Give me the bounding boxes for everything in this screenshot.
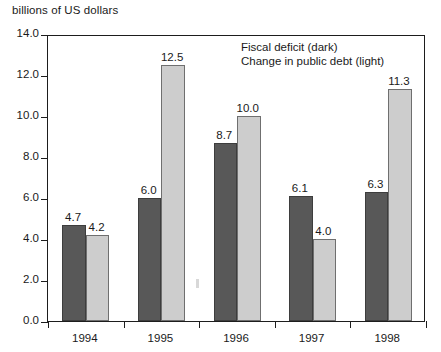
bar-1996-public-debt xyxy=(237,116,261,321)
y-axis-tick-label: 10.0 xyxy=(0,109,39,121)
x-axis-tick xyxy=(275,321,276,328)
chart-figure: billions of US dollars Fiscal deficit (d… xyxy=(0,0,441,352)
y-axis-tick xyxy=(41,240,48,241)
bar-value-label: 10.0 xyxy=(228,102,268,114)
bar-1994-public-debt xyxy=(86,235,110,321)
bar-value-label: 6.3 xyxy=(355,178,395,190)
bar-value-label: 8.7 xyxy=(204,129,244,141)
x-axis-tick xyxy=(48,321,49,328)
y-axis-tick-label: 0.0 xyxy=(0,314,39,326)
y-axis-unit-caption: billions of US dollars xyxy=(12,4,118,16)
bar-1994-fiscal-deficit xyxy=(62,225,86,321)
y-axis-tick xyxy=(41,158,48,159)
y-axis-tick xyxy=(41,117,48,118)
y-axis-tick xyxy=(41,281,48,282)
y-axis-tick-label: 8.0 xyxy=(0,150,39,162)
y-axis-tick-label: 12.0 xyxy=(0,68,39,80)
y-axis-tick xyxy=(41,322,48,323)
y-axis-tick xyxy=(41,76,48,77)
x-axis-tick xyxy=(124,321,125,328)
bar-1997-fiscal-deficit xyxy=(289,196,313,321)
y-axis-tick-label: 14.0 xyxy=(0,27,39,39)
legend-entry-fiscal-deficit: Fiscal deficit (dark) xyxy=(241,40,384,54)
chart-legend: Fiscal deficit (dark) Change in public d… xyxy=(241,40,384,68)
x-axis-tick xyxy=(426,321,427,328)
bar-1998-public-debt xyxy=(388,89,412,321)
bar-value-label: 4.0 xyxy=(303,225,343,237)
bar-value-label: 11.3 xyxy=(379,75,419,87)
x-axis-tick-label: 1996 xyxy=(206,332,266,344)
y-axis-tick-label: 4.0 xyxy=(0,232,39,244)
x-axis-tick xyxy=(350,321,351,328)
bar-value-label: 4.2 xyxy=(77,221,117,233)
y-axis-tick xyxy=(41,35,48,36)
x-axis-tick-label: 1994 xyxy=(55,332,115,344)
legend-entry-public-debt: Change in public debt (light) xyxy=(241,54,384,68)
y-axis-tick-label: 2.0 xyxy=(0,273,39,285)
y-axis-tick-label: 6.0 xyxy=(0,191,39,203)
y-axis-tick xyxy=(41,199,48,200)
bar-1995-fiscal-deficit xyxy=(138,198,162,321)
x-axis-tick-label: 1997 xyxy=(282,332,342,344)
bar-1997-public-debt xyxy=(313,239,337,321)
scan-artifact-speck xyxy=(196,279,199,288)
bar-value-label: 6.1 xyxy=(280,182,320,194)
bar-value-label: 6.0 xyxy=(129,184,169,196)
x-axis-tick xyxy=(199,321,200,328)
bar-1998-fiscal-deficit xyxy=(365,192,389,321)
bar-1996-fiscal-deficit xyxy=(214,143,238,321)
x-axis-tick-label: 1998 xyxy=(357,332,417,344)
x-axis-tick-label: 1995 xyxy=(130,332,190,344)
bar-value-label: 12.5 xyxy=(152,51,192,63)
